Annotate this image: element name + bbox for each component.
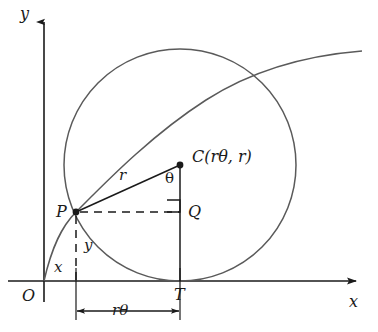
y-axis-label: y <box>20 6 29 22</box>
point-label-T: T <box>174 287 185 303</box>
cycloid-figure: y x O P Q T C(rθ, r) r θ x y rθ <box>0 0 378 332</box>
origin-label: O <box>22 288 35 304</box>
point-P-dot <box>73 209 80 216</box>
angle-label-theta: θ <box>165 171 174 186</box>
point-label-P: P <box>56 204 67 220</box>
x-axis-label: x <box>349 294 358 310</box>
point-label-C: C(rθ, r) <box>192 149 252 165</box>
dimension-label-arc-length: rθ <box>112 303 128 318</box>
segment-label-y: y <box>84 238 92 253</box>
diagram-canvas <box>0 0 378 332</box>
point-C-dot <box>177 162 184 169</box>
point-label-Q: Q <box>188 204 201 220</box>
segment-label-radius: r <box>119 168 126 183</box>
right-angle-marker <box>167 200 180 212</box>
segment-label-x: x <box>54 260 62 275</box>
